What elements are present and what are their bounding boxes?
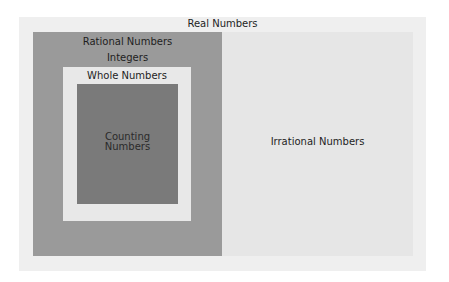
- counting-numbers-region: Counting Numbers: [77, 84, 178, 204]
- counting-numbers-label: Counting Numbers: [77, 132, 178, 152]
- rational-numbers-label: Rational Numbers: [33, 36, 222, 47]
- counting-label-line2: Numbers: [77, 142, 178, 152]
- irrational-numbers-region: Irrational Numbers: [222, 32, 413, 256]
- whole-numbers-label: Whole Numbers: [63, 70, 191, 81]
- irrational-numbers-label: Irrational Numbers: [222, 136, 413, 147]
- real-numbers-label: Real Numbers: [19, 18, 426, 29]
- integers-label: Integers: [33, 52, 222, 63]
